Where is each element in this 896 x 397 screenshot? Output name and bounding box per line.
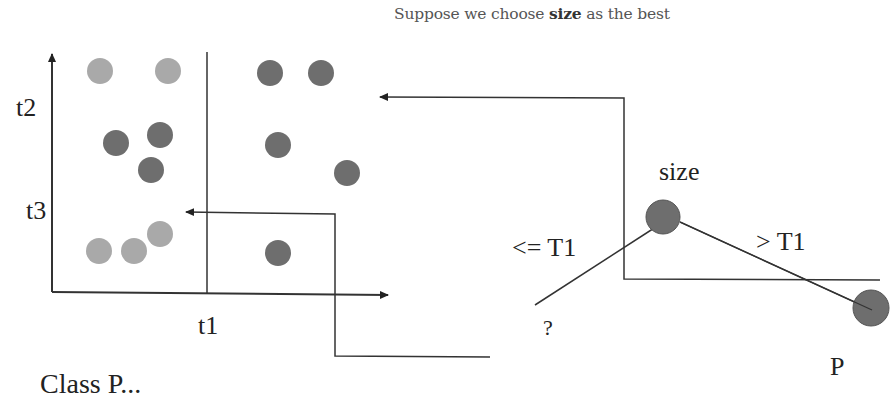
scatter-plot: t1 t2 t3 [16,52,388,340]
leaf-node-p [853,290,889,326]
data-points [86,58,360,266]
decision-tree: size <= T1 > T1 ? P [512,157,889,381]
x-axis-label-t1: t1 [198,311,218,340]
data-point-light [86,238,112,264]
data-point-dark [257,60,283,86]
data-point-light [121,238,147,264]
right-leaf-label: P [830,352,844,381]
root-node [646,200,680,234]
x-axis [52,292,388,295]
data-point-dark [138,157,164,183]
left-edge-label: <= T1 [512,233,576,262]
data-point-dark [265,240,291,266]
right-edge-label: > T1 [756,227,806,256]
arrow-left-branch-to-region [186,212,490,357]
data-point-dark [147,122,173,148]
data-point-dark [265,132,291,158]
data-point-dark [103,130,129,156]
data-point-light [155,58,181,84]
data-point-light [87,58,113,84]
data-point-dark [334,160,360,186]
left-leaf-label: ? [543,315,553,340]
y-axis-label-t3: t3 [26,196,46,225]
data-point-light [147,221,173,247]
bottom-caption: Class P... [40,368,141,397]
root-node-label: size [659,157,699,186]
y-axis-label-t2: t2 [16,93,36,122]
data-point-dark [308,60,334,86]
